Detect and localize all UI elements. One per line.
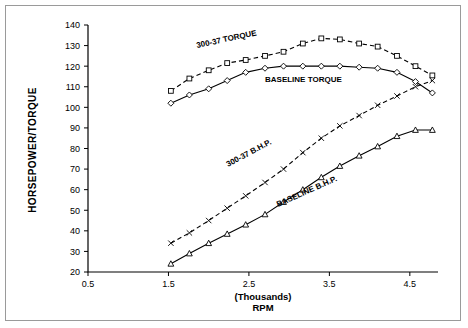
x-tick-label: 3.5	[323, 279, 336, 289]
marker-x	[243, 193, 248, 198]
x-axis-title-line2: RPM	[252, 302, 273, 313]
marker-square	[375, 44, 380, 49]
y-tick-label: 50	[70, 206, 80, 216]
marker-x	[300, 150, 305, 155]
marker-triangle	[375, 143, 381, 148]
y-tick-label: 30	[70, 247, 80, 257]
marker-square	[395, 53, 400, 58]
y-tick-label: 20	[70, 267, 80, 277]
y-tick-label: 40	[70, 226, 80, 236]
y-tick-label: 60	[70, 185, 80, 195]
y-tick-label: 100	[65, 103, 80, 113]
marker-triangle	[243, 222, 249, 227]
marker-x	[337, 123, 342, 128]
series-3	[168, 78, 435, 246]
y-tick-label: 110	[66, 82, 80, 92]
marker-square	[337, 37, 342, 42]
marker-diamond	[186, 92, 192, 98]
marker-diamond	[375, 65, 381, 71]
marker-diamond	[337, 63, 343, 69]
y-tick-label: 80	[70, 144, 80, 154]
marker-square	[413, 64, 418, 69]
marker-diamond	[318, 63, 324, 69]
marker-diamond	[262, 65, 268, 71]
marker-diamond	[281, 63, 287, 69]
marker-diamond	[168, 100, 174, 106]
y-tick-label: 140	[65, 20, 80, 30]
marker-square	[187, 76, 192, 81]
marker-square	[225, 61, 230, 66]
marker-x	[356, 113, 361, 118]
marker-diamond	[206, 86, 212, 92]
marker-square	[319, 36, 324, 41]
y-tick-label: 130	[65, 41, 80, 51]
series-label: 300-37 TORQUE	[196, 28, 258, 50]
marker-triangle	[224, 231, 230, 236]
marker-square	[168, 88, 173, 93]
x-axis-ticks: 0.51.52.53.54.5	[82, 272, 416, 289]
series-label: BASELINE TORQUE	[265, 75, 342, 84]
marker-x	[206, 218, 211, 223]
x-tick-label: 0.5	[82, 279, 95, 289]
marker-x	[394, 93, 399, 98]
x-tick-label: 4.5	[404, 279, 417, 289]
y-axis-title: HORSEPOWER/TORQUE	[27, 87, 38, 213]
marker-x	[168, 240, 173, 245]
marker-triangle	[337, 163, 343, 168]
chart-plot-area: 2030405060708090100110120130140 0.51.52.…	[0, 0, 468, 328]
marker-triangle	[356, 153, 362, 158]
marker-diamond	[224, 78, 230, 84]
marker-triangle	[206, 240, 212, 245]
marker-square	[281, 49, 286, 54]
marker-x	[262, 180, 267, 185]
marker-diamond	[243, 69, 249, 75]
y-tick-label: 70	[70, 164, 80, 174]
marker-x	[319, 136, 324, 141]
marker-triangle	[168, 261, 174, 266]
marker-diamond	[356, 64, 362, 70]
marker-square	[206, 68, 211, 73]
marker-triangle	[262, 211, 268, 216]
data-series-group	[168, 36, 435, 266]
marker-square	[357, 41, 362, 46]
marker-x	[430, 78, 435, 83]
y-tick-label: 90	[70, 123, 80, 133]
marker-diamond	[429, 90, 435, 96]
marker-diamond	[412, 79, 418, 85]
series-label: BASELINE B.H.P.	[275, 174, 338, 209]
x-tick-label: 2.5	[243, 279, 256, 289]
y-axis-ticks: 2030405060708090100110120130140	[65, 20, 88, 277]
marker-x	[375, 103, 380, 108]
marker-diamond	[300, 63, 306, 69]
x-tick-label: 1.5	[162, 279, 175, 289]
chart-figure: 2030405060708090100110120130140 0.51.52.…	[0, 0, 468, 328]
marker-x	[281, 166, 286, 171]
marker-square	[243, 58, 248, 63]
x-axis-title-line1: (Thousands)	[235, 291, 292, 302]
marker-square	[300, 41, 305, 46]
y-tick-label: 120	[65, 62, 80, 72]
marker-x	[187, 230, 192, 235]
marker-diamond	[394, 69, 400, 75]
series-label: 300-37 B.H.P.	[225, 137, 273, 168]
marker-x	[224, 205, 229, 210]
marker-square	[263, 53, 268, 58]
marker-square	[430, 73, 435, 78]
marker-triangle	[186, 250, 192, 255]
